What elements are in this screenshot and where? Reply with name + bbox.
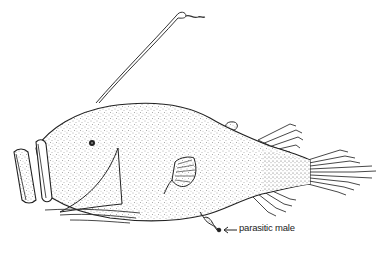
mouth xyxy=(14,140,52,203)
lure-rod xyxy=(96,12,205,103)
anglerfish-illustration xyxy=(0,0,392,254)
tail-fin xyxy=(308,150,376,195)
parasitic-male-label: parasitic male xyxy=(239,222,295,233)
left-arrow-icon xyxy=(224,227,237,233)
